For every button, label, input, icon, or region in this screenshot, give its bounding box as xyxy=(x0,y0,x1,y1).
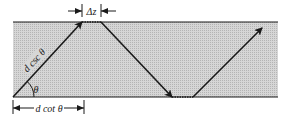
angle-label: θ xyxy=(34,84,39,95)
waveguide-diagram: Δz d csc θ θ d cot θ xyxy=(0,0,288,121)
base-label: d cot θ xyxy=(35,103,62,114)
slab-region xyxy=(13,22,278,97)
delta-z-label: Δz xyxy=(86,6,97,17)
